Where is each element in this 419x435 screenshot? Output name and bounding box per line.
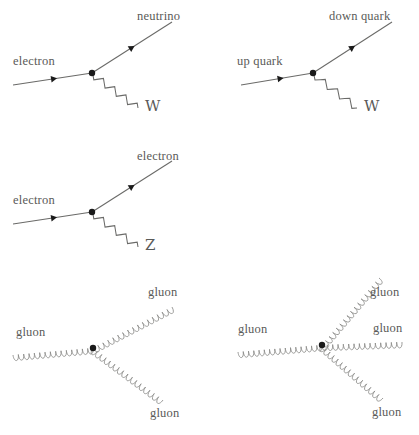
diagram-charged-current-electron-vertex-leg-boson <box>93 75 138 108</box>
diagram-charged-current-quark-vertex-vertex-dot <box>310 70 316 76</box>
diagram-neutral-current-electron-vertex-label-boson: Z <box>145 238 156 253</box>
diagram-triple-gluon-vertex-label-outgoing_lower: gluon <box>150 407 179 420</box>
diagram-quartic-gluon-vertex-label-outgoing_middle: gluon <box>373 322 402 335</box>
diagram-triple-gluon-vertex-label-incoming: gluon <box>16 326 45 339</box>
diagram-triple-gluon-vertex-leg-incoming-gluon <box>13 348 93 361</box>
diagram-triple-gluon-vertex-label-outgoing_upper: gluon <box>148 286 177 299</box>
diagram-neutral-current-electron-vertex-leg-boson <box>93 214 138 247</box>
diagram-quartic-gluon-vertex-vertex-dot <box>319 342 325 348</box>
diagram-charged-current-electron-vertex-leg-incoming-fermion-arrow-icon <box>51 76 57 83</box>
diagram-triple-gluon-vertex <box>13 307 173 403</box>
diagram-charged-current-electron-vertex-leg-outgoing-fermion-arrow-icon <box>128 46 135 52</box>
diagram-charged-current-quark-vertex-label-incoming: up quark <box>237 55 283 68</box>
diagram-charged-current-electron-vertex-label-boson: W <box>145 99 161 114</box>
diagram-charged-current-quark-vertex-leg-boson <box>314 75 357 108</box>
diagram-triple-gluon-vertex-vertex-dot <box>90 345 96 351</box>
feynman-diagram-figure: electronneutrinoWup quarkdown quarkWelec… <box>0 0 419 435</box>
diagram-charged-current-quark-vertex-leg-incoming-fermion <box>241 73 313 85</box>
diagram-neutral-current-electron-vertex-leg-outgoing-fermion-arrow-icon <box>128 185 135 191</box>
diagram-charged-current-quark-vertex-label-boson: W <box>364 99 380 114</box>
diagram-charged-current-quark-vertex-leg-incoming-fermion-arrow-icon <box>277 76 283 83</box>
diagram-canvas <box>0 0 419 435</box>
diagram-quartic-gluon-vertex-label-outgoing_upper: gluon <box>370 286 399 299</box>
diagram-neutral-current-electron-vertex-vertex-dot <box>89 209 95 215</box>
diagram-charged-current-quark-vertex-leg-outgoing-fermion-arrow-icon <box>348 46 355 52</box>
diagram-charged-current-quark-vertex-label-outgoing: down quark <box>329 10 390 23</box>
diagram-triple-gluon-vertex-leg-outgoing-gluon-upper <box>93 307 173 352</box>
diagram-neutral-current-electron-vertex-leg-incoming-fermion-arrow-icon <box>51 215 57 222</box>
diagram-quartic-gluon-vertex-label-outgoing_lower: gluon <box>372 406 401 419</box>
diagram-quartic-gluon-vertex-leg-outgoing-gluon-middle <box>322 342 402 351</box>
diagram-quartic-gluon-vertex-label-incoming: gluon <box>238 323 267 336</box>
diagram-quartic-gluon-vertex-leg-incoming-gluon <box>238 345 322 358</box>
diagram-charged-current-electron-vertex-label-incoming: electron <box>13 55 55 68</box>
diagram-charged-current-electron-vertex-vertex-dot <box>89 70 95 76</box>
diagram-charged-current-electron-vertex-label-outgoing: neutrino <box>137 10 180 23</box>
diagram-quartic-gluon-vertex-leg-outgoing-gluon-lower <box>320 345 383 401</box>
diagram-neutral-current-electron-vertex-label-incoming: electron <box>13 194 55 207</box>
diagram-triple-gluon-vertex-leg-outgoing-gluon-lower <box>91 348 163 403</box>
diagram-neutral-current-electron-vertex-label-outgoing: electron <box>137 150 179 163</box>
